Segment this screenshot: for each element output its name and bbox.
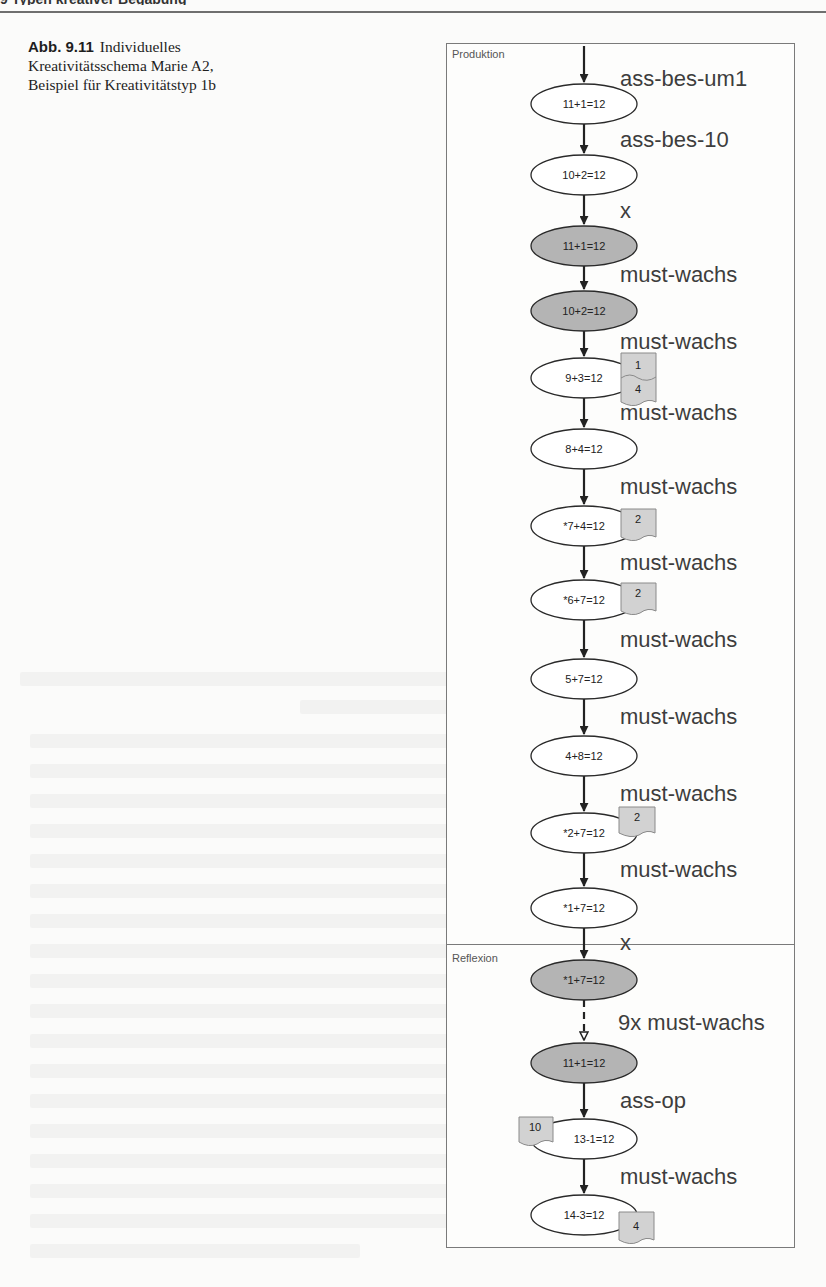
svg-text:13-1=12: 13-1=12 [574,1133,615,1145]
edge-labels: ass-bes-um1 ass-bes-10 x must-wachs must… [618,66,765,1189]
node-n12: *1+7=12 [531,888,637,928]
svg-text:4+8=12: 4+8=12 [565,750,602,762]
svg-text:*1+7=12: *1+7=12 [563,974,605,986]
node-n4: 10+2=12 [531,291,637,331]
svg-text:2: 2 [635,513,641,525]
edge-label: must-wachs [620,262,737,287]
node-n9: 5+7=12 [531,659,637,699]
edge-label: x [620,198,631,223]
svg-text:4: 4 [635,383,641,395]
node-n3: 11+1=12 [531,226,637,266]
edge-label: must-wachs [620,704,737,729]
badge-n11: 2 [619,807,655,837]
nodes: 11+1=12 10+2=12 11+1=12 10+2=12 9+3=12 1… [519,84,656,1244]
edge-label: must-wachs [620,781,737,806]
node-n14: 11+1=12 [531,1043,637,1083]
svg-text:*7+4=12: *7+4=12 [563,520,605,532]
svg-text:*1+7=12: *1+7=12 [563,902,605,914]
svg-text:10+2=12: 10+2=12 [562,305,605,317]
badge-n5: 1 4 [621,353,656,406]
badge-n16: 4 [619,1212,654,1244]
edge-label: ass-bes-um1 [620,66,747,91]
svg-text:10+2=12: 10+2=12 [562,169,605,181]
node-n2: 10+2=12 [531,155,637,195]
edge-label: must-wachs [620,550,737,575]
svg-text:10: 10 [529,1121,541,1133]
edge-label: 9x must-wachs [618,1010,765,1035]
flowchart: ass-bes-um1 ass-bes-10 x must-wachs must… [0,0,826,1287]
badge-n8: 2 [621,583,656,615]
badge-n7: 2 [621,509,656,541]
edge-label: must-wachs [620,474,737,499]
svg-text:2: 2 [635,587,641,599]
svg-text:14-3=12: 14-3=12 [564,1209,605,1221]
svg-text:8+4=12: 8+4=12 [565,443,602,455]
node-n13: *1+7=12 [531,960,637,1000]
node-n1: 11+1=12 [531,84,637,124]
node-n10: 4+8=12 [531,736,637,776]
edge-label: must-wachs [620,857,737,882]
svg-text:11+1=12: 11+1=12 [563,1057,606,1069]
edge-label: ass-op [620,1088,686,1113]
svg-text:*6+7=12: *6+7=12 [563,594,605,606]
edge-label: must-wachs [620,329,737,354]
svg-text:*2+7=12: *2+7=12 [563,827,605,839]
svg-text:11+1=12: 11+1=12 [563,98,606,110]
edge-label: must-wachs [620,627,737,652]
edge-label: ass-bes-10 [620,127,729,152]
svg-text:2: 2 [634,811,640,823]
svg-text:4: 4 [633,1220,639,1232]
svg-text:5+7=12: 5+7=12 [565,673,602,685]
node-n6: 8+4=12 [531,429,637,469]
svg-text:11+1=12: 11+1=12 [563,240,606,252]
edge-label: must-wachs [620,1164,737,1189]
edge-label: x [620,930,631,955]
svg-text:1: 1 [635,359,641,371]
svg-text:9+3=12: 9+3=12 [565,372,602,384]
